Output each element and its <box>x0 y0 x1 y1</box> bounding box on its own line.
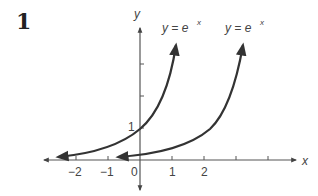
curve-label-1: y = e x <box>161 18 202 35</box>
x-tick-label: 2 <box>201 165 208 179</box>
curve-label-2: y = e x <box>224 18 265 35</box>
x-axis <box>44 156 296 160</box>
graph: y x −2 −1 0 1 2 1 y = e x y = e x <box>0 0 318 196</box>
y-axis <box>140 28 144 190</box>
curve-exp <box>58 45 176 157</box>
svg-text:y = e: y = e <box>161 21 189 35</box>
x-tick-label: −2 <box>68 165 82 179</box>
x-tick-label: 0 <box>131 165 138 179</box>
x-tick-label: −1 <box>100 165 114 179</box>
x-tick-label: 1 <box>169 165 176 179</box>
svg-text:y = e: y = e <box>224 21 252 35</box>
curve-exp-shifted <box>118 45 243 157</box>
x-axis-label: x <box>301 154 309 168</box>
svg-text:x: x <box>196 18 202 27</box>
y-tick-label: 1 <box>128 120 135 134</box>
svg-text:x: x <box>259 18 265 27</box>
y-axis-label: y <box>133 7 141 21</box>
